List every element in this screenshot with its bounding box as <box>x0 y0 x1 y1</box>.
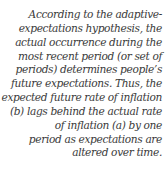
caption-line: future expectations. Thus, the <box>0 77 162 91</box>
caption-line: most recent period (or set of <box>0 50 162 64</box>
caption-line: actual occurrence during the <box>0 36 162 50</box>
caption-line: expected future rate of inflation <box>0 91 162 105</box>
figure-caption: According to the adaptive- expectations … <box>0 8 162 160</box>
caption-line: expectations hypothesis, the <box>0 22 162 36</box>
caption-line: periods) determines people’s <box>0 63 162 77</box>
caption-line: (b) lags behind the actual rate <box>0 105 162 119</box>
caption-line: of inflation (a) by one <box>0 119 162 133</box>
caption-line: altered over time. <box>0 146 162 160</box>
caption-line: period as expectations are <box>0 133 162 147</box>
caption-line: According to the adaptive- <box>0 8 162 22</box>
